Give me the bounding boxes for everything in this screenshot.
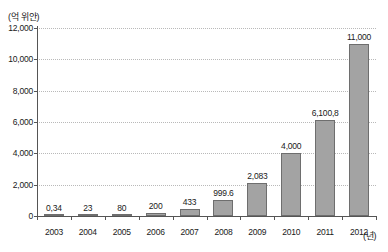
x-axis-tick-mark: [139, 216, 140, 220]
x-axis-tick-mark: [240, 216, 241, 220]
x-axis-category-label: 2009: [248, 227, 266, 237]
x-axis-category-label: 2012: [350, 227, 368, 237]
x-axis-category-label: 2007: [180, 227, 198, 237]
x-axis-category-label: 2006: [147, 227, 165, 237]
x-axis-category-label: 2004: [79, 227, 97, 237]
y-axis-tick-label: 8,000: [1, 86, 33, 96]
x-axis-tick-mark: [37, 216, 38, 220]
y-axis-tick-mark: [34, 153, 37, 154]
x-axis-category-label: 2008: [214, 227, 232, 237]
y-axis-tick-mark: [34, 185, 37, 186]
x-axis-tick-mark: [274, 216, 275, 220]
y-axis-tick-mark: [34, 59, 37, 60]
x-axis-tick-mark: [173, 216, 174, 220]
x-axis-tick-mark: [308, 216, 309, 220]
x-axis-tick-mark: [376, 216, 377, 220]
x-axis-category-label: 2005: [113, 227, 131, 237]
x-axis-category-label: 2011: [316, 227, 333, 237]
x-axis-category-label: 2010: [282, 227, 300, 237]
x-axis-category-label: 2003: [45, 227, 63, 237]
bar-chart: (억 위안) (년) 02,0004,0006,0008,00010,00012…: [0, 0, 388, 252]
x-axis-category-labels: 2003200420052006200720082009201020112012: [37, 0, 376, 252]
x-axis-tick-mark: [342, 216, 343, 220]
y-axis-tick-labels: 02,0004,0006,0008,00010,00012,000: [0, 0, 33, 252]
y-axis-tick-label: 12,000: [1, 23, 33, 33]
y-axis-tick-label: 4,000: [1, 148, 33, 158]
y-axis-tick-mark: [34, 91, 37, 92]
y-axis-tick-label: 10,000: [1, 54, 33, 64]
y-axis-tick-label: 0: [1, 211, 33, 221]
y-axis-tick-label: 6,000: [1, 117, 33, 127]
y-axis-tick-label: 2,000: [1, 180, 33, 190]
x-axis-tick-mark: [105, 216, 106, 220]
y-axis-tick-mark: [34, 122, 37, 123]
x-axis-tick-mark: [71, 216, 72, 220]
y-axis-tick-mark: [34, 28, 37, 29]
x-axis-tick-mark: [207, 216, 208, 220]
